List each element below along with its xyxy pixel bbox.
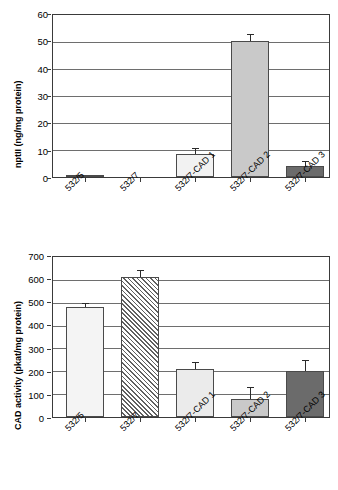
error-bar-532-7 (140, 271, 141, 277)
gridline (53, 42, 329, 43)
error-bar-532-7-cad-1 (195, 149, 196, 154)
y-tickmark (47, 395, 51, 396)
y-tick-label: 100 (28, 389, 44, 400)
gridline (53, 69, 329, 70)
y-tickmark (47, 279, 51, 280)
panel-b-plot-area (52, 256, 330, 418)
panel-a-plot-area (52, 14, 330, 178)
x-tickmark (250, 418, 251, 422)
y-tick-label: 600 (28, 274, 44, 285)
y-tickmark (47, 151, 51, 152)
y-tickmark (47, 325, 51, 326)
y-tickmark (47, 349, 51, 350)
bar-532-7 (121, 277, 159, 417)
gridline (53, 303, 329, 304)
y-tickmark (47, 418, 51, 419)
error-cap (247, 387, 254, 388)
error-cap (302, 360, 309, 361)
error-cap (192, 148, 199, 149)
error-bar-532-7-cad-3 (305, 361, 306, 371)
gridline (53, 280, 329, 281)
y-tickmark (47, 69, 51, 70)
y-tickmark (47, 123, 51, 124)
y-tickmark (47, 14, 51, 15)
y-tick-label: 400 (28, 320, 44, 331)
y-tickmark (47, 372, 51, 373)
y-tick-label: 300 (28, 343, 44, 354)
figure-panels: nptII (ng/mg protein) 60 50 40 30 20 10 … (0, 0, 338, 490)
error-cap (82, 303, 89, 304)
y-tickmark (47, 96, 51, 97)
x-tickmark (140, 178, 141, 182)
panel-b-y-tick-labels: 700 600 500 400 300 200 100 0 (14, 256, 44, 418)
error-bar-532-7-cad-1 (195, 363, 196, 369)
x-tickmark (140, 418, 141, 422)
x-tickmark (305, 178, 306, 182)
error-cap (137, 270, 144, 271)
y-tick-label: 500 (28, 297, 44, 308)
error-cap (192, 362, 199, 363)
x-tickmark (250, 178, 251, 182)
x-tickmark (195, 418, 196, 422)
x-tickmark (85, 178, 86, 182)
panel-a: nptII (ng/mg protein) 60 50 40 30 20 10 … (0, 0, 338, 240)
x-tickmark (195, 178, 196, 182)
gridline (53, 96, 329, 97)
y-tickmark (47, 302, 51, 303)
panel-a-y-tick-labels: 60 50 40 30 20 10 0 (18, 14, 48, 178)
error-bar-532-7-cad-2 (250, 388, 251, 399)
y-tick-label: 0 (39, 413, 44, 424)
gridline (53, 150, 329, 151)
y-tickmark (47, 178, 51, 179)
y-tick-label: 700 (28, 251, 44, 262)
y-tick-label: 200 (28, 366, 44, 377)
y-tickmark (47, 256, 51, 257)
x-tickmark (85, 418, 86, 422)
bar-532-5 (66, 307, 104, 417)
y-tickmark (47, 41, 51, 42)
gridline (53, 123, 329, 124)
x-tickmark (305, 418, 306, 422)
error-cap (247, 34, 254, 35)
panel-b: CAD activity (pkat/mg protein) 700 600 5… (0, 240, 338, 490)
error-bar-532-5 (85, 304, 86, 307)
error-bar-532-7-cad-2 (250, 35, 251, 41)
